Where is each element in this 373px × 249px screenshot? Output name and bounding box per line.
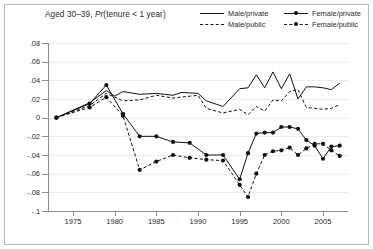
data-point <box>279 148 283 152</box>
x-tick-1 <box>115 211 116 216</box>
legend-key-male-private <box>200 9 224 18</box>
data-point <box>221 153 225 157</box>
x-tick-3 <box>198 211 199 216</box>
data-point <box>304 146 308 150</box>
data-point <box>246 151 250 155</box>
data-point <box>138 134 142 138</box>
legend-item-male-public[interactable]: Male/public <box>200 20 284 29</box>
legend-row-2: Male/public Female/public <box>200 19 368 30</box>
legend-key-male-public <box>200 20 224 29</box>
data-point <box>321 157 325 161</box>
series-line-female-public <box>56 97 339 197</box>
legend-key-female-private <box>284 9 308 18</box>
legend-label-female-public: Female/public <box>312 20 358 29</box>
legend-label-male-private: Male/private <box>228 9 268 18</box>
x-tick-4 <box>240 211 241 216</box>
x-tick-0 <box>73 211 74 216</box>
y-tick-label-1: .06 <box>0 57 40 66</box>
data-point <box>221 159 225 163</box>
data-point <box>288 125 292 129</box>
legend-key-female-public <box>284 20 308 29</box>
data-point <box>154 159 158 163</box>
y-tick-label-5: -.02 <box>0 132 40 141</box>
data-point <box>88 105 92 109</box>
legend-item-female-public[interactable]: Female/public <box>284 20 368 29</box>
data-point <box>329 145 333 149</box>
x-tick-label-6: 2005 <box>315 217 332 226</box>
data-point <box>338 154 342 158</box>
data-point <box>329 148 333 152</box>
x-tick-label-5: 2000 <box>273 217 290 226</box>
data-point <box>154 134 158 138</box>
legend-label-female-private: Female/private <box>312 9 361 18</box>
data-point <box>296 127 300 131</box>
data-point <box>204 158 208 162</box>
series-line-male-private <box>56 72 339 118</box>
x-tick-label-3: 1990 <box>190 217 207 226</box>
chart-title: Aged 30–39, Pr(tenure < 1 year) <box>45 10 166 19</box>
x-tick-6 <box>323 211 324 216</box>
data-point <box>288 145 292 149</box>
legend-item-male-private[interactable]: Male/private <box>200 9 284 18</box>
y-tick-label-6: -.04 <box>0 151 40 160</box>
y-tick-9 <box>42 211 48 212</box>
data-point <box>188 141 192 145</box>
data-point <box>304 138 308 142</box>
data-point <box>263 153 267 157</box>
data-point <box>188 156 192 160</box>
x-tick-5 <box>281 211 282 216</box>
legend-item-female-private[interactable]: Female/private <box>284 9 368 18</box>
data-point <box>104 95 108 99</box>
legend-row-1: Male/private Female/private <box>200 8 368 19</box>
x-tick-label-2: 1985 <box>148 217 165 226</box>
y-tick-label-4: 0 <box>0 113 40 122</box>
data-point <box>271 131 275 135</box>
data-point <box>246 195 250 199</box>
y-tick-label-3: .02 <box>0 95 40 104</box>
y-tick-label-8: -.08 <box>0 188 40 197</box>
data-point <box>279 125 283 129</box>
y-tick-label-0: .08 <box>0 39 40 48</box>
data-point <box>254 131 258 135</box>
data-point <box>88 102 92 106</box>
data-series-layer <box>48 43 348 211</box>
data-point <box>104 83 108 87</box>
legend-label-male-public: Male/public <box>228 20 265 29</box>
data-point <box>138 168 142 172</box>
data-point <box>121 114 125 118</box>
data-point <box>238 183 242 187</box>
data-point <box>271 149 275 153</box>
data-point <box>263 131 267 135</box>
y-tick-label-7: -.06 <box>0 169 40 178</box>
data-point <box>338 144 342 148</box>
data-point <box>171 140 175 144</box>
data-point <box>313 142 317 146</box>
x-tick-label-0: 1975 <box>65 217 82 226</box>
y-tick-label-2: .04 <box>0 76 40 85</box>
data-point <box>254 172 258 176</box>
y-tick-label-9: -.1 <box>0 207 40 216</box>
data-point <box>238 177 242 181</box>
data-point <box>321 142 325 146</box>
chart-title-suffix: (tenure < 1 year) <box>103 10 165 19</box>
series-line-female-private <box>56 85 339 179</box>
x-tick-label-1: 1980 <box>106 217 123 226</box>
data-point <box>171 153 175 157</box>
chart-title-prefix: Aged 30–39, <box>45 10 95 19</box>
x-tick-2 <box>156 211 157 216</box>
data-point <box>296 153 300 157</box>
data-point <box>54 116 58 120</box>
data-point <box>204 153 208 157</box>
x-tick-label-4: 1995 <box>231 217 248 226</box>
figure-container: Aged 30–39, Pr(tenure < 1 year) Male/pri… <box>0 0 373 249</box>
chart-legend: Male/private Female/private Male/public … <box>200 8 368 30</box>
